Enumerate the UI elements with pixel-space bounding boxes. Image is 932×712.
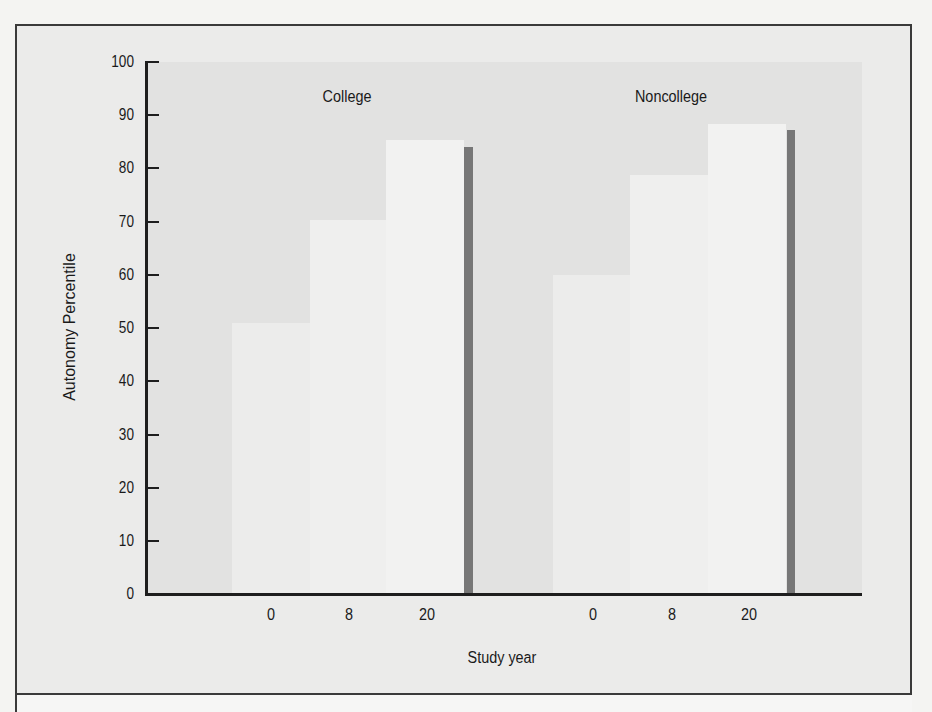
y-tick-40: [147, 380, 159, 382]
y-tick-90: [147, 114, 159, 116]
x-tick-college-0: 0: [267, 606, 275, 624]
bar-noncollege-year-0: [553, 275, 630, 594]
y-tick-30: [147, 434, 159, 436]
x-tick-noncollege-20: 20: [741, 606, 757, 624]
y-tick-label: 10: [100, 532, 134, 550]
y-tick-label: 80: [100, 159, 134, 177]
bar-college-year-8: [310, 220, 386, 594]
y-tick-20: [147, 487, 159, 489]
y-tick-label: 90: [100, 106, 134, 124]
bar-college-year-0: [232, 323, 310, 594]
y-tick-80: [147, 167, 159, 169]
y-tick-label: 60: [100, 266, 134, 284]
x-tick-college-8: 8: [345, 606, 353, 624]
y-tick-60: [147, 274, 159, 276]
y-axis-label: Autonomy Percentile: [61, 253, 79, 401]
group-title-college: College: [323, 88, 372, 106]
y-tick-label: 20: [100, 479, 134, 497]
y-tick-label: 0: [100, 585, 134, 603]
x-axis-label: Study year: [468, 649, 537, 667]
y-tick-label: 50: [100, 319, 134, 337]
x-tick-college-20: 20: [419, 606, 435, 624]
caption-strip: [15, 695, 912, 712]
x-tick-noncollege-8: 8: [668, 606, 676, 624]
y-tick-50: [147, 327, 159, 329]
group-title-noncollege: Noncollege: [635, 88, 707, 106]
y-tick-100: [147, 61, 159, 63]
bar-noncollege-year-8: [630, 175, 708, 594]
y-tick-label: 30: [100, 426, 134, 444]
x-axis: [145, 593, 862, 596]
y-tick-label: 70: [100, 213, 134, 231]
y-tick-label: 40: [100, 372, 134, 390]
bar-college-year-20: [386, 140, 464, 594]
bar-noncollege-year-20: [708, 124, 786, 594]
y-tick-label: 100: [100, 53, 134, 71]
y-tick-10: [147, 540, 159, 542]
marker-bar-noncollege: [787, 130, 795, 594]
x-tick-noncollege-0: 0: [589, 606, 597, 624]
marker-bar-college: [464, 147, 473, 594]
y-tick-70: [147, 221, 159, 223]
